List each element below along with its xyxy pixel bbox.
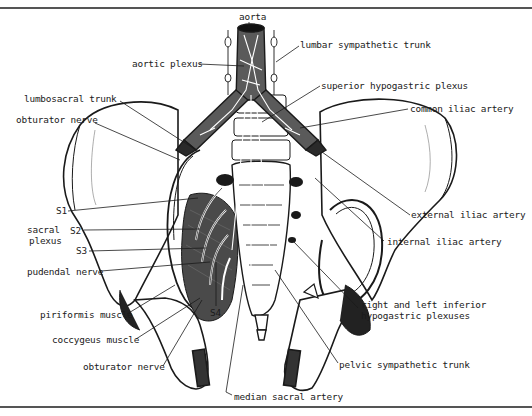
- label-s4: S4: [210, 307, 221, 318]
- label-s3: S3: [76, 245, 87, 256]
- label-pudendal-nerve: pudendal nerve: [27, 266, 103, 277]
- label-lumbosacral-trunk: lumbosacral trunk: [24, 93, 117, 104]
- anatomy-figure: aorta aortic plexus lumbar sympathetic t…: [0, 0, 532, 416]
- label-aorta: aorta: [239, 11, 266, 22]
- label-median-sacral-artery: median sacral artery: [234, 391, 343, 402]
- sacrum: [232, 161, 290, 340]
- label-piriformis-muscle: piriformis muscle: [40, 309, 133, 320]
- label-inferior-hypogastric-line2: hypogastric plexuses: [361, 310, 470, 321]
- label-superior-hypogastric-plexus: superior hypogastric plexus: [321, 80, 468, 91]
- label-pelvic-sympathetic-trunk: pelvic sympathetic trunk: [339, 359, 470, 370]
- aorta-vessel: [236, 24, 266, 100]
- label-aortic-plexus: aortic plexus: [132, 58, 203, 69]
- label-common-iliac-artery: common iliac artery: [410, 103, 513, 114]
- label-s1: S1: [56, 205, 67, 216]
- label-inferior-hypogastric-line1: right and left inferior: [361, 299, 486, 310]
- label-s2: S2: [70, 225, 81, 236]
- label-coccygeus-muscle: coccygeus muscle: [52, 334, 139, 345]
- piriformis-muscle-shape: [182, 193, 238, 321]
- label-sacral-plexus-line1: sacral: [27, 224, 60, 235]
- label-external-iliac-artery: external iliac artery: [411, 209, 525, 220]
- label-obturator-nerve-upper: obturator nerve: [16, 114, 98, 125]
- label-lumbar-sympathetic-trunk: lumbar sympathetic trunk: [300, 39, 431, 50]
- right-pubis: [284, 284, 371, 390]
- pelvis-illustration: [0, 0, 532, 416]
- label-internal-iliac-artery: internal iliac artery: [387, 236, 501, 247]
- label-obturator-nerve-lower: obturator nerve: [83, 361, 165, 372]
- label-sacral-plexus-line2: plexus: [29, 235, 62, 246]
